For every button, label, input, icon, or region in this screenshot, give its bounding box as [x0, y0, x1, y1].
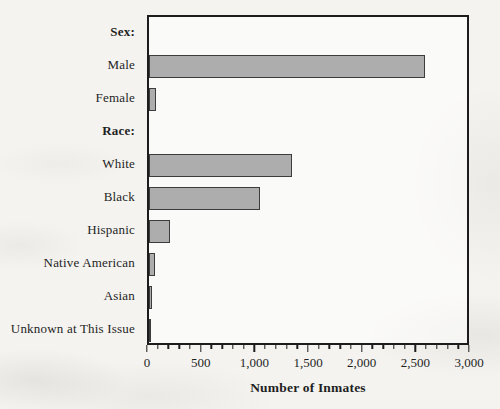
group-header-label: Race:	[0, 114, 142, 147]
bar	[149, 286, 152, 309]
minor-tick	[329, 345, 330, 349]
minor-tick	[275, 345, 276, 349]
minor-tick	[382, 345, 383, 349]
minor-tick	[286, 345, 287, 349]
minor-tick	[318, 345, 319, 349]
minor-tick	[436, 345, 437, 349]
minor-tick	[372, 345, 373, 349]
group-header-label: Sex:	[0, 15, 142, 48]
minor-tick	[404, 345, 405, 349]
category-label: Female	[0, 81, 142, 114]
major-tick	[146, 345, 147, 352]
x-axis-ticks	[147, 345, 469, 353]
bar	[149, 88, 156, 111]
minor-tick	[221, 345, 222, 349]
x-axis-tick-labels: 05001,0001,5002,0002,5003,000	[147, 355, 469, 371]
category-label: Male	[0, 48, 142, 81]
x-axis-tick-label: 2,000	[347, 355, 376, 371]
minor-tick	[211, 345, 212, 349]
minor-tick	[232, 345, 233, 349]
major-tick	[361, 345, 362, 352]
minor-tick	[157, 345, 158, 349]
category-label: Unknown at This Issue	[0, 312, 142, 345]
bar	[149, 55, 425, 78]
minor-tick	[339, 345, 340, 349]
bar	[149, 154, 292, 177]
minor-tick	[447, 345, 448, 349]
minor-tick	[264, 345, 265, 349]
minor-tick	[168, 345, 169, 349]
x-axis-title: Number of Inmates	[147, 380, 469, 396]
minor-tick	[178, 345, 179, 349]
category-labels: Sex:MaleFemaleRace:WhiteBlackHispanicNat…	[0, 15, 142, 345]
category-label: Black	[0, 180, 142, 213]
x-axis-tick-label: 2,500	[401, 355, 430, 371]
minor-tick	[458, 345, 459, 349]
category-label: White	[0, 147, 142, 180]
x-axis-tick-label: 1,000	[240, 355, 269, 371]
x-axis-tick-label: 3,000	[454, 355, 483, 371]
x-axis-tick-label: 500	[191, 355, 211, 371]
major-tick	[254, 345, 255, 352]
minor-tick	[297, 345, 298, 349]
major-tick	[307, 345, 308, 352]
x-axis-tick-label: 1,500	[293, 355, 322, 371]
bar	[149, 253, 155, 276]
minor-tick	[350, 345, 351, 349]
major-tick	[415, 345, 416, 352]
plot-area	[147, 15, 469, 345]
bar	[149, 220, 170, 243]
bar	[149, 187, 260, 210]
major-tick	[468, 345, 469, 352]
scanned-page: Sex:MaleFemaleRace:WhiteBlackHispanicNat…	[0, 0, 500, 409]
minor-tick	[425, 345, 426, 349]
x-axis-tick-label: 0	[144, 355, 151, 371]
minor-tick	[243, 345, 244, 349]
category-label: Native American	[0, 246, 142, 279]
category-label: Hispanic	[0, 213, 142, 246]
major-tick	[200, 345, 201, 352]
minor-tick	[393, 345, 394, 349]
category-label: Asian	[0, 279, 142, 312]
bar	[149, 319, 151, 342]
minor-tick	[189, 345, 190, 349]
